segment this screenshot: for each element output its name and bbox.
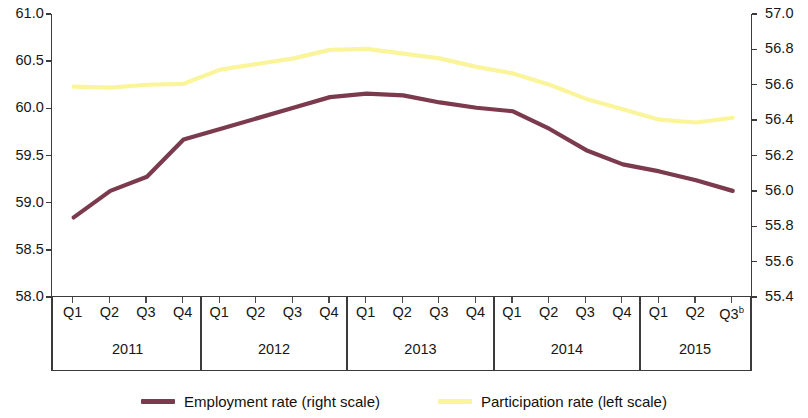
left-axis-tick-label: 61.0 [0,5,44,21]
legend-item-participation-rate: Participation rate (left scale) [438,393,667,410]
year-label: 2013 [387,341,455,357]
quarter-label: Q3b [710,304,754,322]
quarter-tick [182,297,183,303]
quarter-tick [402,297,403,303]
right-axis-tick-label: 56.8 [765,40,808,56]
quarter-tick [219,297,220,303]
participation-rate-line [74,49,733,123]
right-axis-tick-label: 56.0 [765,182,808,198]
quarter-tick [621,297,622,303]
quarter-tick [365,297,366,303]
legend-label-employment: Employment rate (right scale) [184,393,380,410]
left-axis-tick-label: 58.0 [0,288,44,304]
quarter-tick [658,297,659,303]
year-label: 2014 [533,341,601,357]
legend-color-swatch-employment [141,399,175,404]
dual-axis-line-chart: 58.058.559.059.560.060.561.0 55.455.655.… [0,0,808,418]
right-axis-tick-label: 56.6 [765,76,808,92]
left-axis-tick-label: 59.0 [0,194,44,210]
legend-color-swatch-participation [438,399,472,404]
quarter-tick [145,297,146,303]
left-axis-tick-label: 58.5 [0,241,44,257]
quarter-tick [585,297,586,303]
year-separator [493,297,495,370]
right-axis-tick-label: 56.4 [765,111,808,127]
quarter-tick [72,297,73,303]
legend-item-employment-rate: Employment rate (right scale) [141,393,380,410]
left-axis-tick-label: 60.0 [0,99,44,115]
quarter-tick [731,297,732,303]
year-label: 2015 [661,341,729,357]
footnote-marker: b [739,304,744,315]
year-separator [639,297,641,370]
quarter-axis: Q1Q2Q3Q4Q1Q2Q3Q4Q1Q2Q3Q4Q1Q2Q3Q4Q1Q2Q3b [51,297,752,327]
right-axis-tick-label: 56.2 [765,147,808,163]
quarter-tick [548,297,549,303]
plot-area [51,14,752,297]
year-separator-end [750,297,752,370]
quarter-tick [511,297,512,303]
year-axis: 20112012201320142015 [51,327,752,370]
year-separator [346,297,348,370]
left-axis-tick-label: 60.5 [0,52,44,68]
year-separator [51,297,53,370]
year-axis-baseline [51,370,752,371]
year-label: 2011 [94,341,162,357]
quarter-tick [292,297,293,303]
year-label: 2012 [240,341,308,357]
right-axis-tick-label: 55.8 [765,217,808,233]
chart-legend: Employment rate (right scale) Participat… [0,385,808,418]
left-axis-tick-label: 59.5 [0,147,44,163]
quarter-tick [328,297,329,303]
quarter-tick [438,297,439,303]
plot-canvas [52,14,753,297]
quarter-tick [475,297,476,303]
legend-label-participation: Participation rate (left scale) [481,393,667,410]
right-axis-tick-label: 55.4 [765,288,808,304]
right-axis-tick-label: 57.0 [765,5,808,21]
right-axis-tick-label: 55.6 [765,253,808,269]
year-separator [200,297,202,370]
quarter-tick [255,297,256,303]
quarter-tick [694,297,695,303]
quarter-tick [109,297,110,303]
